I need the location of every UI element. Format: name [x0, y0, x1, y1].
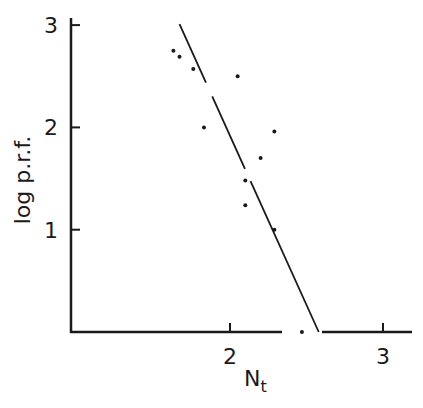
x-tick-label: 2: [223, 344, 237, 369]
chart: 123 23 log p.r.f. Nt: [0, 0, 423, 408]
x-axis-title-main: N: [244, 366, 260, 391]
data-point: [236, 74, 240, 78]
fitted-line-segment: [180, 24, 206, 83]
x-tick-label: 3: [376, 344, 390, 369]
data-point: [202, 125, 206, 129]
y-tick-label: 3: [44, 13, 58, 38]
data-point: [191, 67, 195, 71]
fitted-line: [180, 24, 319, 332]
y-tick-label: 2: [44, 115, 58, 140]
data-point: [272, 228, 276, 232]
x-ticks: 23: [223, 323, 390, 369]
data-point: [171, 49, 175, 53]
data-point: [300, 330, 304, 334]
fitted-line-segment: [251, 181, 319, 332]
x-axis-title-sub: t: [260, 377, 266, 396]
data-point: [272, 129, 276, 133]
y-axis-title: log p.r.f.: [10, 136, 35, 225]
y-tick-label: 1: [44, 218, 58, 243]
data-point: [178, 55, 182, 59]
fitted-line-segment: [212, 96, 245, 168]
data-points: [171, 49, 304, 334]
x-axis-title: Nt: [244, 366, 267, 396]
data-point: [259, 156, 263, 160]
data-point: [243, 203, 247, 207]
y-ticks: 123: [44, 13, 80, 243]
data-point: [243, 179, 247, 183]
